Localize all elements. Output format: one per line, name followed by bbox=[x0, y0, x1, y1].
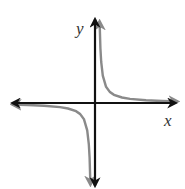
x-axis-label: x bbox=[164, 112, 172, 129]
curve-quadrant-3 bbox=[12, 105, 90, 185]
hyperbola-graph bbox=[0, 0, 185, 189]
curve-quadrant-1 bbox=[100, 21, 178, 101]
y-axis-label: y bbox=[76, 20, 84, 37]
